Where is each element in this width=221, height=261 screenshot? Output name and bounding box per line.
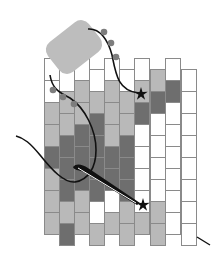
needle-icon	[73, 164, 140, 205]
peyote-diagram	[0, 0, 221, 261]
thread-tail	[197, 237, 210, 245]
star-icon	[136, 198, 149, 211]
thread-beads-lower	[50, 87, 78, 108]
star-markers	[134, 87, 149, 211]
overlay-layer	[0, 0, 221, 261]
stop-bead-strap-icon	[42, 16, 106, 78]
thread-beads-upper	[101, 29, 120, 61]
